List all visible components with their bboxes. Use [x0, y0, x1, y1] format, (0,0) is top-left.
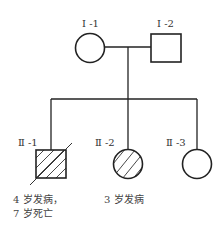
label-II-1: Ⅱ -1: [18, 137, 38, 148]
note-II-1-line1: 4 岁发病，: [13, 193, 63, 205]
male-affected-deceased-icon-II-1: [16, 143, 84, 185]
label-II-2: Ⅱ -2: [95, 137, 115, 148]
label-II-3: Ⅱ -3: [166, 137, 186, 148]
female-affected-icon-II-2: [91, 146, 153, 186]
pedigree-diagram: Ⅰ -1 Ⅰ -2 Ⅱ -1 Ⅱ -2 Ⅱ -3: [0, 0, 224, 232]
label-I-1: Ⅰ -1: [82, 18, 99, 29]
male-unaffected-icon-I-2: [151, 34, 181, 62]
label-I-2: Ⅰ -2: [157, 18, 174, 29]
female-unaffected-icon-I-1: [76, 34, 105, 63]
note-II-1-line2: 7 岁死亡: [13, 207, 53, 219]
note-II-2: 3 岁发病: [104, 193, 144, 205]
female-unaffected-icon-II-3: [183, 150, 212, 179]
